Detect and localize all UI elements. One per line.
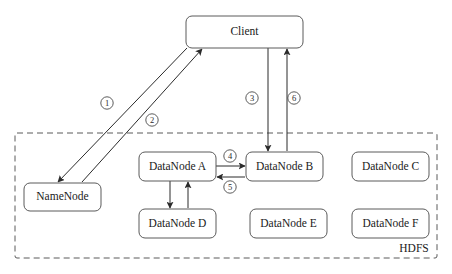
node-datanodeE[interactable]: DataNode E: [250, 209, 327, 238]
step-marker-5: 5: [224, 181, 236, 193]
node-datanodeA[interactable]: DataNode A: [139, 152, 216, 181]
node-label-datanodeE: DataNode E: [260, 217, 317, 229]
node-label-namenode: NameNode: [36, 190, 88, 202]
step-marker-4: 4: [224, 150, 236, 162]
node-namenode[interactable]: NameNode: [24, 183, 101, 211]
step-number-6: 6: [292, 93, 296, 103]
step-marker-3: 3: [246, 92, 258, 104]
node-group: ClientNameNodeDataNode ADataNode BDataNo…: [24, 16, 429, 238]
node-label-datanodeB: DataNode B: [256, 160, 313, 172]
node-datanodeD[interactable]: DataNode D: [139, 209, 216, 238]
step-marker-6: 6: [288, 92, 300, 104]
node-client[interactable]: Client: [186, 16, 303, 48]
node-datanodeC[interactable]: DataNode C: [352, 152, 429, 181]
step-number-5: 5: [228, 182, 232, 192]
node-label-datanodeF: DataNode F: [363, 217, 419, 229]
step-number-4: 4: [228, 151, 233, 161]
hdfs-dataflow-diagram: HDFS ClientNameNodeDataNode ADataNode BD…: [0, 0, 452, 274]
node-datanodeB[interactable]: DataNode B: [246, 152, 323, 181]
step-number-2: 2: [150, 115, 154, 125]
node-label-client: Client: [230, 25, 259, 37]
step-marker-2: 2: [146, 114, 158, 126]
node-label-datanodeD: DataNode D: [149, 217, 207, 229]
diagram-canvas: HDFS ClientNameNodeDataNode ADataNode BD…: [0, 0, 452, 274]
node-label-datanodeC: DataNode C: [362, 160, 419, 172]
hdfs-boundary-label: HDFS: [399, 242, 428, 254]
step-marker-1: 1: [101, 97, 113, 109]
step-number-3: 3: [250, 93, 254, 103]
node-datanodeF[interactable]: DataNode F: [352, 209, 429, 238]
node-label-datanodeA: DataNode A: [149, 160, 207, 172]
step-number-1: 1: [105, 98, 109, 108]
